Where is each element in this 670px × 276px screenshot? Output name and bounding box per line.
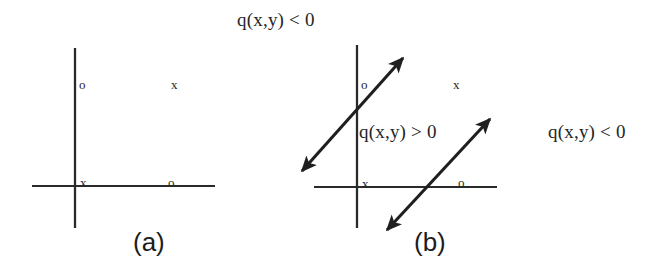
right-region-label: q(x,y) < 0 <box>548 122 626 141</box>
panel-b-marker-origin-right: x <box>362 177 369 190</box>
panel-a-marker-upper-left: o <box>79 78 86 91</box>
panel-a-marker-lower-right: o <box>168 176 175 189</box>
panel-a-caption: (a) <box>133 229 165 255</box>
panel-a-marker-origin-right: x <box>80 176 87 189</box>
panel-b-caption: (b) <box>414 229 446 255</box>
panel-b-separating-lines <box>302 58 490 230</box>
figure-canvas: q(x,y) < 0 q(x,y) > 0 q(x,y) < 0 o x x o… <box>0 0 670 276</box>
panel-a-marker-upper-right: x <box>171 78 178 91</box>
left-separating-line-arrow <box>302 58 403 171</box>
middle-region-label: q(x,y) > 0 <box>359 122 437 141</box>
top-region-label: q(x,y) < 0 <box>237 10 315 29</box>
panel-b-marker-lower-right: o <box>458 176 465 189</box>
panel-a-axes <box>32 48 215 228</box>
panel-b-marker-upper-right: x <box>453 78 460 91</box>
panel-b-marker-upper-left: o <box>361 78 368 91</box>
